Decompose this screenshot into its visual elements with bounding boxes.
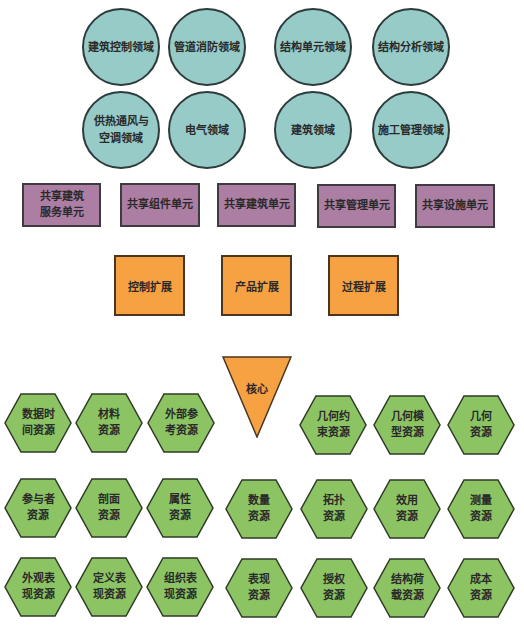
hex-label: 数量 资源 xyxy=(225,479,293,539)
shared-building-services: 共享建筑 服务单元 xyxy=(22,183,101,227)
shared-facilities-elements: 共享设施单元 xyxy=(415,184,495,228)
resource-property: 属性 资源 xyxy=(146,478,214,538)
domain-structural-elements: 结构单元领域 xyxy=(274,8,352,86)
hex-label: 外部参 考资源 xyxy=(147,393,215,453)
hex-label: 几何 资源 xyxy=(447,395,515,455)
hex-label: 授权 资源 xyxy=(300,558,368,618)
resource-topology: 拓扑 资源 xyxy=(300,479,368,539)
hex-label: 剖面 资源 xyxy=(75,478,143,538)
resource-approval: 授权 资源 xyxy=(300,558,368,618)
domain-hvac: 供热通风与 空调领域 xyxy=(82,91,160,169)
hex-label: 组织表 现资源 xyxy=(146,557,214,617)
resource-geometric-constraint: 几何约 束资源 xyxy=(299,395,367,455)
product-extension: 产品扩展 xyxy=(221,255,292,316)
resource-geometric-model: 几何模 型资源 xyxy=(373,395,441,455)
shared-building-elements: 共享建筑单元 xyxy=(217,183,296,227)
resource-material: 材料 资源 xyxy=(75,393,143,453)
hex-label: 几何模 型资源 xyxy=(373,395,441,455)
resource-cost: 成本 资源 xyxy=(447,558,515,618)
resource-presentation-definition: 定义表 现资源 xyxy=(75,557,143,617)
hex-label: 效用 资源 xyxy=(373,479,441,539)
resource-geometry: 几何 资源 xyxy=(447,395,515,455)
resource-utility: 效用 资源 xyxy=(373,479,441,539)
domain-structural-analysis: 结构分析领域 xyxy=(372,8,450,86)
shared-management-elements: 共享管理单元 xyxy=(317,184,396,228)
resource-structural-load: 结构荷 载资源 xyxy=(373,558,441,618)
domain-building-control: 建筑控制领域 xyxy=(82,8,160,86)
hex-label: 数据时 间资源 xyxy=(4,393,72,453)
hex-label: 材料 资源 xyxy=(75,393,143,453)
domain-architecture: 建筑领域 xyxy=(274,91,352,169)
resource-profile: 剖面 资源 xyxy=(75,478,143,538)
domain-construction-management: 施工管理领域 xyxy=(372,91,450,169)
hex-label: 表现 资源 xyxy=(225,558,293,618)
core-label: 核心 xyxy=(222,380,292,396)
process-extension: 过程扩展 xyxy=(328,255,399,316)
hex-label: 结构荷 载资源 xyxy=(373,558,441,618)
resource-presentation-organization: 组织表 现资源 xyxy=(146,557,214,617)
hex-label: 外观表 现资源 xyxy=(4,557,72,617)
triangle-shape xyxy=(222,356,292,438)
resource-datetime: 数据时 间资源 xyxy=(4,393,72,453)
domain-electrical: 电气领域 xyxy=(168,91,246,169)
hex-label: 成本 资源 xyxy=(447,558,515,618)
resource-external-reference: 外部参 考资源 xyxy=(147,393,215,453)
resource-presentation-appearance: 外观表 现资源 xyxy=(4,557,72,617)
control-extension: 控制扩展 xyxy=(114,255,185,316)
hex-label: 拓扑 资源 xyxy=(300,479,368,539)
hex-label: 定义表 现资源 xyxy=(75,557,143,617)
hex-label: 参与者 资源 xyxy=(4,478,72,538)
resource-actor: 参与者 资源 xyxy=(4,478,72,538)
core-triangle: 核心 xyxy=(222,356,292,438)
hex-label: 几何约 束资源 xyxy=(299,395,367,455)
shared-component-elements: 共享组件单元 xyxy=(120,183,200,227)
resource-measure: 测量 资源 xyxy=(447,479,515,539)
hex-label: 属性 资源 xyxy=(146,478,214,538)
domain-piping-fire: 管道消防领域 xyxy=(168,8,246,86)
resource-presentation: 表现 资源 xyxy=(225,558,293,618)
hex-label: 测量 资源 xyxy=(447,479,515,539)
resource-quantity: 数量 资源 xyxy=(225,479,293,539)
